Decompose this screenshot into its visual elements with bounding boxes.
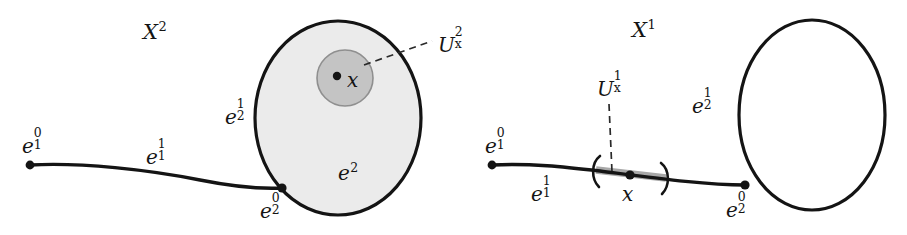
label-e-2-1-right-scripts: 12 bbox=[704, 93, 714, 113]
label-U-x-2: U2x bbox=[438, 32, 465, 55]
leader-line-U-x-1 bbox=[609, 104, 612, 172]
label-point-x-left-base: x bbox=[347, 68, 358, 92]
label-e-2-0-left-scripts: 02 bbox=[272, 198, 282, 218]
label-U-x-1-base: U bbox=[597, 77, 614, 101]
label-e-2-cell-base: e bbox=[338, 161, 350, 185]
label-e-1-1-left: e11 bbox=[146, 144, 168, 167]
panel-title-right-base: X bbox=[632, 18, 647, 42]
label-e-1-0-right-base: e bbox=[485, 134, 497, 158]
label-e-2-0-right: e02 bbox=[726, 197, 748, 220]
label-e-2-cell: e2 bbox=[338, 163, 358, 183]
label-e-2-0-left-base: e bbox=[260, 199, 272, 223]
vertex-e-1-0-left bbox=[26, 161, 35, 170]
panel-title-left: X2 bbox=[143, 22, 167, 43]
label-e-1-1-right-base: e bbox=[531, 182, 543, 206]
label-U-x-1-scripts: 1x bbox=[614, 76, 624, 96]
label-point-x-right-base: x bbox=[622, 182, 633, 206]
neighborhood-disk-U-x-2 bbox=[317, 50, 373, 106]
label-e-2-1-right-base: e bbox=[692, 94, 704, 118]
label-e-2-0-left: e02 bbox=[260, 198, 282, 221]
label-e-2-cell-sup: 2 bbox=[350, 160, 358, 175]
label-e-1-0-right: e01 bbox=[485, 133, 507, 156]
label-e-1-1-left-scripts: 11 bbox=[158, 144, 168, 164]
one-cell-arc-right bbox=[492, 164, 745, 185]
label-U-x-2-scripts: 2x bbox=[455, 32, 465, 52]
label-e-1-0-left-base: e bbox=[22, 134, 34, 158]
vertex-e-1-0-right bbox=[488, 161, 497, 170]
panel-title-right-sup: 1 bbox=[647, 17, 655, 32]
label-e-2-1-right: e12 bbox=[692, 93, 714, 116]
one-cell-loop-right bbox=[739, 20, 885, 210]
point-x-right bbox=[625, 170, 634, 179]
label-e-1-0-left-scripts: 01 bbox=[34, 133, 44, 153]
label-e-2-0-right-scripts: 02 bbox=[738, 197, 748, 217]
label-e-2-1-left: e12 bbox=[225, 104, 247, 127]
panel-title-left-base: X bbox=[143, 20, 158, 44]
label-e-1-1-right-scripts: 11 bbox=[543, 181, 553, 201]
label-e-1-0-left: e01 bbox=[22, 133, 44, 156]
label-e-1-1-left-base: e bbox=[146, 145, 158, 169]
label-point-x-left: x bbox=[347, 70, 358, 90]
label-U-x-1: U1x bbox=[597, 76, 624, 99]
panel-title-left-sup: 2 bbox=[158, 19, 166, 34]
label-point-x-right: x bbox=[622, 184, 633, 204]
label-e-2-1-left-scripts: 12 bbox=[237, 104, 247, 124]
label-U-x-2-base: U bbox=[438, 33, 455, 57]
label-e-1-0-right-scripts: 01 bbox=[497, 133, 507, 153]
label-e-1-1-right: e11 bbox=[531, 181, 553, 204]
panel-title-right: X1 bbox=[632, 20, 656, 41]
point-x-left bbox=[333, 72, 341, 80]
cw-complex-figure: X2 e01 e11 e12 e02 e2 x U2x X1 e01 e11 e… bbox=[0, 0, 907, 235]
label-e-2-1-left-base: e bbox=[225, 105, 237, 129]
label-e-2-0-right-base: e bbox=[726, 198, 738, 222]
